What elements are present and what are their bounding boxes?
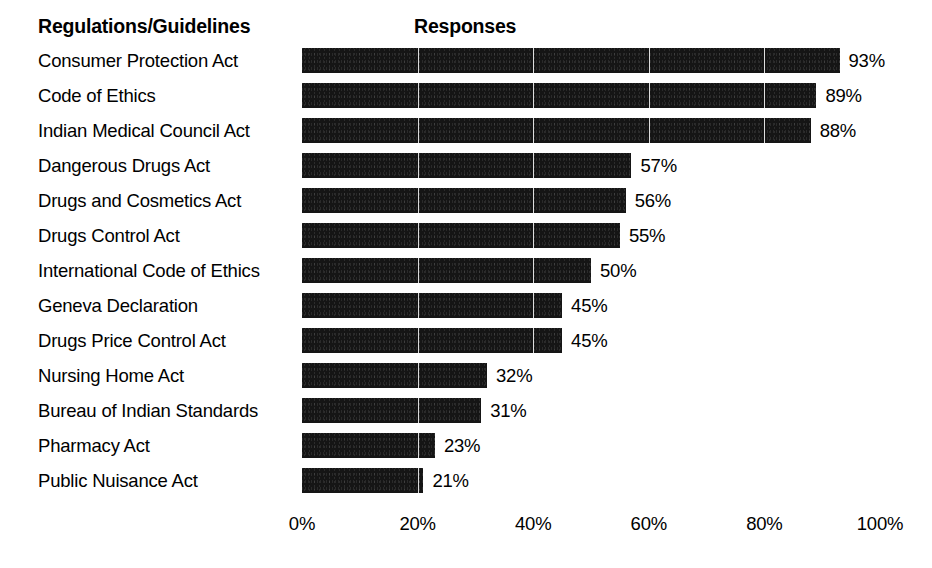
bar-track: 45% <box>302 293 880 319</box>
category-label: Pharmacy Act <box>38 432 290 460</box>
plot-area: Consumer Protection Act93%Code of Ethics… <box>0 47 932 502</box>
responses-column-header: Responses <box>414 14 516 38</box>
category-label: Dangerous Drugs Act <box>38 152 290 180</box>
value-label: 93% <box>849 48 885 74</box>
bar <box>302 223 620 248</box>
gridline <box>649 83 650 108</box>
bar-track: 45% <box>302 328 880 354</box>
category-label: Geneva Declaration <box>38 292 290 320</box>
x-tick-label: 100% <box>857 512 904 536</box>
value-label: 55% <box>629 223 665 249</box>
chart-row: Indian Medical Council Act88% <box>0 117 932 152</box>
category-label: Bureau of Indian Standards <box>38 397 290 425</box>
bar <box>302 258 591 283</box>
gridline <box>649 48 650 73</box>
x-tick-label: 80% <box>746 512 782 536</box>
gridline <box>418 433 419 458</box>
category-label: Indian Medical Council Act <box>38 117 290 145</box>
gridline <box>418 363 419 388</box>
bar-track: 93% <box>302 48 880 74</box>
category-column-header: Regulations/Guidelines <box>38 14 250 38</box>
bar-track: 55% <box>302 223 880 249</box>
x-tick-label: 0% <box>289 512 315 536</box>
gridline <box>764 118 765 143</box>
gridline <box>533 83 534 108</box>
horizontal-bar-chart: Regulations/Guidelines Responses Consume… <box>0 0 932 568</box>
value-label: 32% <box>496 363 532 389</box>
bar <box>302 118 811 143</box>
chart-row: Public Nuisance Act21% <box>0 467 932 502</box>
gridline <box>418 153 419 178</box>
category-label: International Code of Ethics <box>38 257 290 285</box>
chart-header-row: Regulations/Guidelines Responses <box>0 14 932 42</box>
bar <box>302 328 562 353</box>
category-label: Public Nuisance Act <box>38 467 290 495</box>
gridline <box>418 118 419 143</box>
chart-row: Dangerous Drugs Act57% <box>0 152 932 187</box>
gridline <box>533 293 534 318</box>
bar-track: 56% <box>302 188 880 214</box>
chart-row: Pharmacy Act23% <box>0 432 932 467</box>
value-label: 45% <box>571 293 607 319</box>
bar <box>302 83 816 108</box>
gridline <box>533 223 534 248</box>
x-axis: 0%20%40%60%80%100% <box>302 512 880 542</box>
category-label: Consumer Protection Act <box>38 47 290 75</box>
gridline <box>533 48 534 73</box>
bar <box>302 48 840 73</box>
category-label: Code of Ethics <box>38 82 290 110</box>
gridline <box>533 258 534 283</box>
category-label: Nursing Home Act <box>38 362 290 390</box>
value-label: 31% <box>490 398 526 424</box>
x-tick-label: 60% <box>631 512 667 536</box>
value-label: 89% <box>825 83 861 109</box>
value-label: 57% <box>640 153 676 179</box>
gridline <box>418 223 419 248</box>
bar-track: 23% <box>302 433 880 459</box>
bar <box>302 398 481 423</box>
bar <box>302 433 435 458</box>
bar-track: 21% <box>302 468 880 494</box>
x-tick-label: 40% <box>515 512 551 536</box>
bar <box>302 188 626 213</box>
gridline <box>533 153 534 178</box>
value-label: 88% <box>820 118 856 144</box>
chart-row: Drugs Price Control Act45% <box>0 327 932 362</box>
category-label: Drugs Price Control Act <box>38 327 290 355</box>
gridline <box>764 48 765 73</box>
bar-track: 50% <box>302 258 880 284</box>
gridline <box>418 398 419 423</box>
bar-track: 88% <box>302 118 880 144</box>
bar <box>302 153 631 178</box>
bar <box>302 468 423 493</box>
bar <box>302 363 487 388</box>
value-label: 50% <box>600 258 636 284</box>
bar-track: 32% <box>302 363 880 389</box>
gridline <box>418 188 419 213</box>
gridline <box>418 83 419 108</box>
gridline <box>418 293 419 318</box>
category-label: Drugs and Cosmetics Act <box>38 187 290 215</box>
gridline <box>533 188 534 213</box>
bar-track: 89% <box>302 83 880 109</box>
gridline <box>533 118 534 143</box>
chart-row: Geneva Declaration45% <box>0 292 932 327</box>
gridline <box>418 328 419 353</box>
bar-track: 31% <box>302 398 880 424</box>
chart-row: Drugs and Cosmetics Act56% <box>0 187 932 222</box>
gridline <box>418 468 419 493</box>
chart-row: Code of Ethics89% <box>0 82 932 117</box>
value-label: 21% <box>432 468 468 494</box>
chart-row: Drugs Control Act55% <box>0 222 932 257</box>
value-label: 45% <box>571 328 607 354</box>
value-label: 56% <box>635 188 671 214</box>
value-label: 23% <box>444 433 480 459</box>
chart-row: International Code of Ethics50% <box>0 257 932 292</box>
gridline <box>533 328 534 353</box>
category-label: Drugs Control Act <box>38 222 290 250</box>
chart-row: Consumer Protection Act93% <box>0 47 932 82</box>
gridline <box>764 83 765 108</box>
gridline <box>649 118 650 143</box>
x-tick-label: 20% <box>399 512 435 536</box>
gridline <box>418 258 419 283</box>
